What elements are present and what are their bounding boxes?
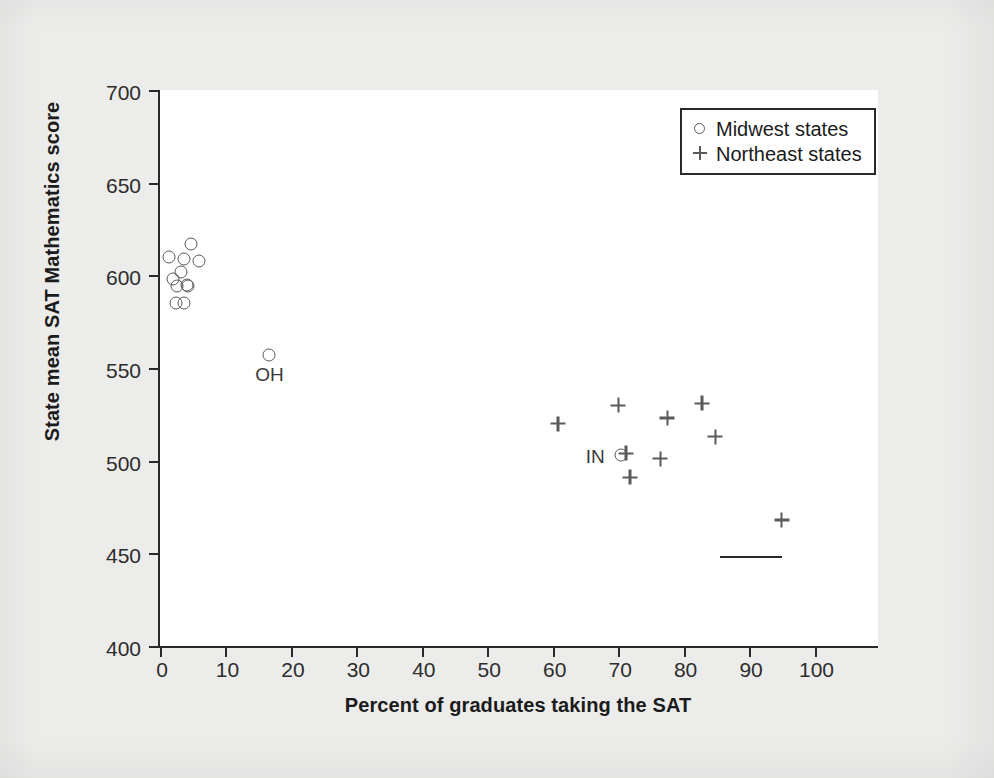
point-label: IN	[586, 447, 605, 466]
x-tick: 20	[291, 646, 293, 657]
data-point-circle	[182, 280, 195, 293]
x-tick-label: 40	[412, 659, 435, 680]
data-point-plus	[694, 396, 709, 411]
x-tick: 80	[684, 646, 686, 657]
chart-legend: Midwest states Northeast states	[680, 108, 876, 175]
y-axis-title: State mean SAT Mathematics score	[41, 12, 64, 532]
data-point-plus	[622, 470, 637, 485]
data-point-plus	[653, 451, 668, 466]
x-tick-label: 70	[608, 659, 631, 680]
y-tick-label: 600	[106, 267, 141, 288]
legend-item-northeast: Northeast states	[692, 141, 862, 166]
data-point-plus	[774, 512, 789, 527]
x-tick-label: 100	[799, 659, 834, 680]
x-tick-label: 90	[739, 659, 762, 680]
y-tick-label: 500	[106, 452, 141, 473]
y-tick-label: 650	[106, 174, 141, 195]
y-tick: 600	[149, 275, 160, 277]
data-point-circle	[263, 349, 276, 362]
x-tick: 100	[815, 646, 817, 657]
data-point-plus	[660, 411, 675, 426]
data-point-circle	[178, 252, 191, 265]
data-point-circle	[163, 250, 176, 263]
y-tick-label: 450	[106, 545, 141, 566]
x-tick-label: 30	[347, 659, 370, 680]
x-tick-label: 10	[216, 659, 239, 680]
y-tick: 400	[149, 646, 160, 648]
plus-marker-icon	[692, 145, 709, 162]
x-tick: 60	[553, 646, 555, 657]
data-point-plus	[611, 398, 626, 413]
x-tick-label: 0	[156, 659, 168, 680]
point-label: OH	[255, 365, 284, 384]
x-tick: 90	[749, 646, 751, 657]
data-point-circle	[178, 297, 191, 310]
x-tick: 70	[618, 646, 620, 657]
x-tick: 50	[487, 646, 489, 657]
y-tick: 450	[149, 553, 160, 555]
y-tick-label: 400	[106, 638, 141, 659]
y-tick: 700	[149, 90, 160, 92]
x-tick: 30	[356, 646, 358, 657]
legend-label-midwest: Midwest states	[716, 119, 848, 139]
x-tick-label: 60	[543, 659, 566, 680]
x-axis-line-extension	[720, 556, 782, 558]
x-tick-label: 50	[478, 659, 501, 680]
x-axis-title: Percent of graduates taking the SAT	[158, 694, 878, 717]
data-point-plus	[550, 416, 565, 431]
x-tick-label: 20	[281, 659, 304, 680]
data-point-circle	[193, 254, 206, 267]
data-point-plus	[619, 446, 634, 461]
legend-label-northeast: Northeast states	[716, 144, 862, 164]
y-tick-label: 550	[106, 360, 141, 381]
y-tick: 550	[149, 368, 160, 370]
x-tick: 0	[160, 646, 162, 657]
data-point-plus	[708, 429, 723, 444]
x-tick: 40	[422, 646, 424, 657]
figure-canvas: 400450500550600650700 010203040506070809…	[0, 0, 994, 778]
y-tick: 650	[149, 183, 160, 185]
data-point-circle	[185, 237, 198, 250]
x-tick-label: 80	[674, 659, 697, 680]
y-tick: 500	[149, 461, 160, 463]
y-tick-label: 700	[106, 82, 141, 103]
circle-marker-icon	[692, 120, 709, 137]
plot-area: 400450500550600650700 010203040506070809…	[158, 90, 878, 648]
legend-item-midwest: Midwest states	[692, 116, 862, 141]
x-tick: 10	[225, 646, 227, 657]
